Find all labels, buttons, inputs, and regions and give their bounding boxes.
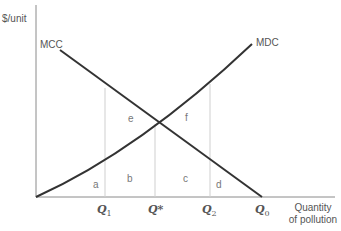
x-axis-label-line1: Quantity [284,202,341,214]
area-c: c [183,174,188,184]
y-axis-label: $/unit [2,14,26,24]
area-a: a [93,180,99,190]
area-d: d [216,180,222,190]
area-e: e [128,114,134,124]
area-f: f [185,113,188,123]
area-b: b [127,174,133,184]
mcc-label: MCC [40,40,63,50]
tick-q0: Q0 [255,204,270,218]
tick-qstar: Q* [148,204,163,215]
diagram-canvas [0,0,341,231]
tick-q2: Q2 [202,204,217,218]
tick-q1: Q1 [97,204,112,218]
mdc-curve [36,44,252,197]
mcc-curve [60,50,262,197]
x-axis-label-line2: of pollution [284,214,341,226]
x-axis-label: Quantity of pollution [284,202,341,226]
mdc-label: MDC [256,38,279,48]
